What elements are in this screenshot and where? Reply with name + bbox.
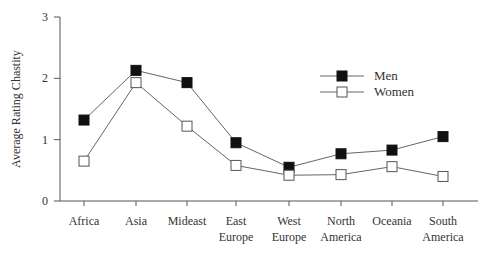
x-tick-label: America bbox=[320, 230, 362, 244]
filled-square-marker bbox=[438, 132, 448, 142]
filled-square-marker bbox=[336, 149, 346, 159]
x-tick-label: West bbox=[277, 214, 301, 228]
filled-square-marker bbox=[131, 65, 141, 75]
x-tick-label: Mideast bbox=[168, 214, 207, 228]
y-tick-label: 0 bbox=[42, 194, 48, 208]
filled-square-marker bbox=[231, 138, 241, 148]
legend: MenWomen bbox=[320, 68, 415, 99]
legend-item-women: Women bbox=[320, 84, 415, 99]
filled-square-marker bbox=[182, 78, 192, 88]
open-square-marker bbox=[131, 78, 141, 88]
open-square-marker bbox=[438, 171, 448, 181]
x-tick-label: North bbox=[327, 214, 355, 228]
x-tick-label: Asia bbox=[125, 214, 148, 228]
x-axis: AfricaAsiaMideastEastEuropeWestEuropeNor… bbox=[60, 201, 478, 244]
y-axis: 0123 bbox=[42, 10, 60, 208]
x-tick-label: Oceania bbox=[372, 214, 412, 228]
y-tick-label: 2 bbox=[42, 71, 48, 85]
open-square-legend-icon bbox=[337, 87, 347, 97]
line-chart: 0123 AfricaAsiaMideastEastEuropeWestEuro… bbox=[0, 0, 487, 254]
y-tick-label: 3 bbox=[42, 10, 48, 24]
filled-square-marker bbox=[79, 115, 89, 125]
y-axis-title: Average Rating Chastity bbox=[9, 50, 23, 168]
open-square-marker bbox=[231, 160, 241, 170]
x-tick-label: Africa bbox=[69, 214, 100, 228]
open-square-marker bbox=[387, 162, 397, 172]
filled-square-legend-icon bbox=[337, 71, 347, 81]
x-tick-label: Europe bbox=[272, 230, 307, 244]
open-square-marker bbox=[336, 170, 346, 180]
y-tick-label: 1 bbox=[42, 133, 48, 147]
x-tick-label: South bbox=[429, 214, 457, 228]
open-square-marker bbox=[284, 170, 294, 180]
legend-item-men: Men bbox=[320, 68, 398, 83]
x-tick-label: East bbox=[226, 214, 247, 228]
filled-square-marker bbox=[387, 145, 397, 155]
legend-label: Women bbox=[374, 84, 415, 99]
x-tick-label: Europe bbox=[219, 230, 254, 244]
legend-label: Men bbox=[374, 68, 398, 83]
open-square-marker bbox=[182, 121, 192, 131]
x-tick-label: America bbox=[422, 230, 464, 244]
open-square-marker bbox=[79, 156, 89, 166]
